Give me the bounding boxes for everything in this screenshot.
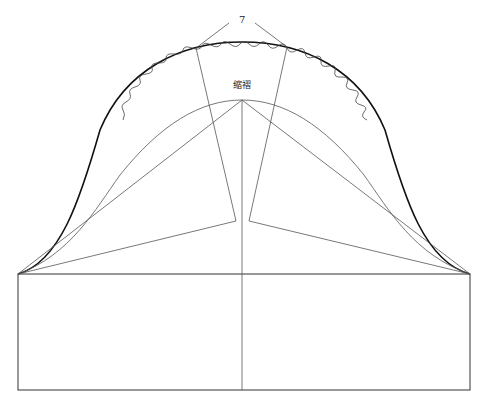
left-bias-line [18,100,242,274]
right-spread-line [249,47,470,274]
gathering-label: 缩褶 [233,79,251,90]
right-bias-line [242,100,470,274]
left-spread-line [18,48,236,274]
sleeve-pattern-diagram: 7 缩褶 [0,0,483,408]
sleeve-body-rectangle [18,274,470,390]
measurement-label: 7 [239,14,245,25]
outer-sleeve-cap-curve [18,42,470,274]
